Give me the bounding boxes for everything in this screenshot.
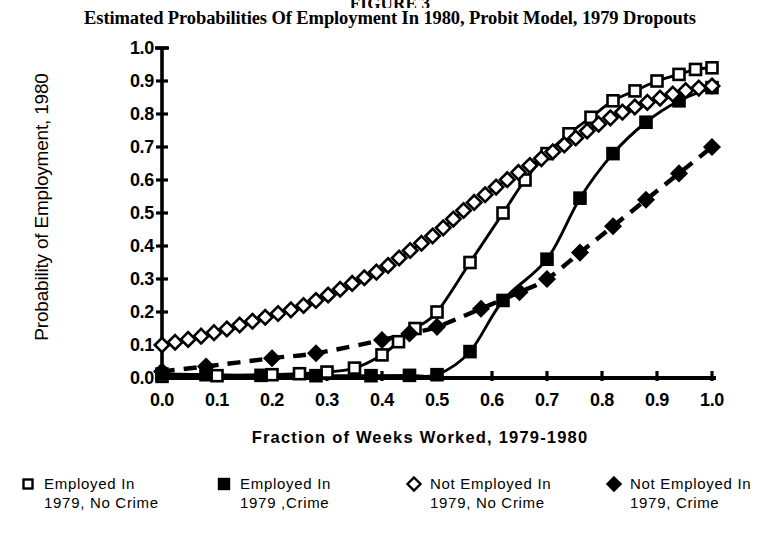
data-point-marker [652,76,663,87]
data-point-marker [641,117,652,128]
data-point-marker [404,370,415,381]
data-point-marker [608,95,619,106]
data-point-marker [674,69,685,80]
data-point-marker [575,193,586,204]
legend-marker [214,472,240,494]
data-point-marker [366,370,377,381]
open-square-icon [18,474,38,494]
data-point-marker [181,332,195,346]
data-point-marker [212,370,223,381]
data-point-marker [498,208,509,219]
data-point-marker [311,370,322,381]
legend-label: Employed In 1979, No Crime [44,472,159,512]
data-point-marker [707,62,718,73]
series-line-3 [162,147,712,371]
data-point-marker [309,346,323,360]
legend-item[interactable]: Not Employed In 1979, No Crime [404,472,604,512]
data-point-marker [155,338,169,352]
chart-legend: Employed In 1979, No CrimeEmployed In 19… [18,472,770,534]
legend-item[interactable]: Employed In 1979 ,Crime [214,472,404,512]
legend-marker [18,472,44,494]
figure-container: FIGURE 3 Estimated Probabilities Of Empl… [0,0,780,537]
data-point-marker [294,368,305,379]
data-point-marker [207,325,221,339]
data-point-marker [690,64,701,75]
data-point-marker [256,370,267,381]
data-point-marker [465,346,476,357]
data-point-marker [265,351,279,365]
data-point-marker [512,285,526,299]
data-point-marker [432,307,443,318]
data-point-marker [349,363,360,374]
data-point-marker [465,257,476,268]
data-point-marker [498,295,509,306]
data-point-marker [377,349,388,360]
legend-marker [604,472,630,494]
plot-area [0,0,780,537]
data-point-marker [430,320,444,334]
legend-label: Not Employed In 1979, Crime [630,472,751,512]
data-point-marker [168,335,182,349]
legend-marker [404,472,430,494]
data-point-marker [630,85,641,96]
data-point-marker [474,302,488,316]
data-point-marker [432,369,443,380]
data-point-marker [375,333,389,347]
filled-diamond-icon [604,474,624,494]
filled-square-icon [214,474,234,494]
legend-label: Not Employed In 1979, No Crime [430,472,551,512]
data-point-marker [267,369,278,380]
data-point-marker [608,148,619,159]
legend-label: Employed In 1979 ,Crime [240,472,331,512]
data-point-marker [194,329,208,343]
legend-item[interactable]: Employed In 1979, No Crime [18,472,214,512]
data-point-marker [322,367,333,378]
data-point-marker [393,336,404,347]
open-diamond-icon [404,474,424,494]
data-point-marker [542,254,553,265]
legend-item[interactable]: Not Employed In 1979, Crime [604,472,770,512]
